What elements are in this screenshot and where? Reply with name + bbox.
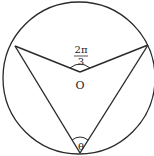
chord-left	[15, 46, 80, 153]
inscribed-angle-arc	[72, 137, 88, 140]
chord-right	[80, 45, 148, 153]
inscribed-angle-label: θ	[78, 141, 84, 152]
circle-diagram: 2π 3 O θ	[0, 0, 154, 156]
central-angle-numerator: 2π	[75, 44, 88, 55]
circle	[3, 2, 154, 154]
center-label: O	[75, 79, 84, 92]
radius-right	[80, 45, 148, 72]
central-angle-denominator: 3	[78, 56, 84, 67]
